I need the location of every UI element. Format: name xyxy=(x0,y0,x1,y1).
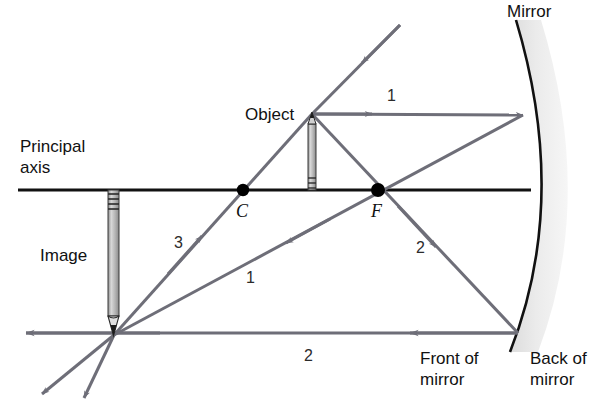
center-of-curvature-label: C xyxy=(236,201,249,221)
mirror-label: Mirror xyxy=(507,2,552,21)
ray-1-incident-label: 1 xyxy=(387,87,396,104)
ray-diagram-canvas: Principal axis Object Image Mirror Front… xyxy=(0,0,608,404)
front-of-mirror-label-line1: Front of xyxy=(420,349,479,368)
back-of-mirror-label-line1: Back of xyxy=(530,349,587,368)
principal-axis-label-line1: Principal xyxy=(20,137,85,156)
mirror-body xyxy=(510,20,568,352)
point-center-of-curvature xyxy=(237,184,249,196)
ray-2-reflected-label: 2 xyxy=(304,347,313,364)
point-focal xyxy=(371,183,385,197)
optics-ray-diagram: Principal axis Object Image Mirror Front… xyxy=(0,0,608,404)
ray-2-incident xyxy=(312,114,518,333)
front-of-mirror-label-line2: mirror xyxy=(420,370,465,389)
image-label: Image xyxy=(40,246,87,265)
ray-1-reflected-label: 1 xyxy=(246,269,255,286)
focal-point-label: F xyxy=(370,201,383,221)
back-of-mirror-label-line2: mirror xyxy=(530,370,575,389)
ray-3-label: 3 xyxy=(174,234,183,251)
object-pencil xyxy=(308,112,316,190)
principal-axis-label-line2: axis xyxy=(20,158,50,177)
ray-2-incident-label: 2 xyxy=(416,239,425,256)
ray-1-incident xyxy=(312,114,523,115)
image-pencil xyxy=(108,190,119,336)
object-label: Object xyxy=(245,105,294,124)
